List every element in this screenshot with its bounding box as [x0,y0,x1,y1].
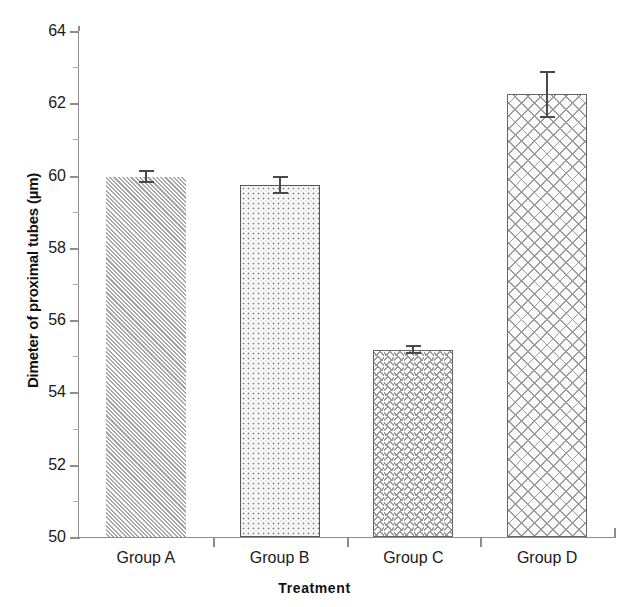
bar [373,350,453,537]
error-bar-cap-bottom [273,192,288,194]
x-axis-tick-label: Group B [210,549,350,567]
y-axis-major-tick [70,392,79,394]
x-axis-major-tick [347,538,349,547]
bar-chart: Dimeter of proximal tubes (µm) 505254565… [0,0,629,607]
y-axis-major-tick [70,465,79,467]
y-axis-major-tick [70,248,79,250]
error-bar-cap-top [273,176,288,178]
x-axis-end-tick [614,528,616,537]
bar-fill-diagonal-hatch [106,177,186,537]
x-axis-tick-label: Group A [76,549,216,567]
bar [106,177,186,537]
y-axis-major-tick [70,320,79,322]
bar [507,94,587,537]
error-bar-cap-bottom [540,116,555,118]
bar-fill-zigzag-herringbone [373,350,453,537]
x-axis-tick-label: Group D [477,549,617,567]
y-axis-tick-label: 58 [26,239,66,257]
y-axis-tick-label: 56 [26,311,66,329]
bar-fill-crosshatch-lattice [507,94,587,537]
x-axis-tick-label: Group C [343,549,483,567]
y-axis-tick-label: 62 [26,94,66,112]
y-axis-tick-label: 52 [26,456,66,474]
error-bar-stem [546,71,548,118]
y-axis-tick-label: 64 [26,22,66,40]
error-bar-cap-top [406,345,421,347]
error-bar-cap-top [139,170,154,172]
x-axis-major-tick [480,538,482,547]
error-bar-cap-bottom [406,352,421,354]
x-axis-major-tick [213,538,215,547]
y-axis-tick-label: 54 [26,383,66,401]
error-bar-cap-bottom [139,181,154,183]
x-axis-title: Treatment [0,580,629,596]
y-axis-major-tick [70,31,79,33]
bar-fill-stipple-dots [240,185,320,537]
y-axis-major-tick [70,176,79,178]
plot-area [79,31,614,537]
y-axis-tick-label: 60 [26,167,66,185]
y-axis-major-tick [70,103,79,105]
error-bar-cap-top [540,71,555,73]
y-axis-tick-label: 50 [26,528,66,546]
bar [240,185,320,537]
y-axis-tick-labels: 5052545658606264 [22,0,66,607]
y-axis-major-tick [70,537,79,539]
